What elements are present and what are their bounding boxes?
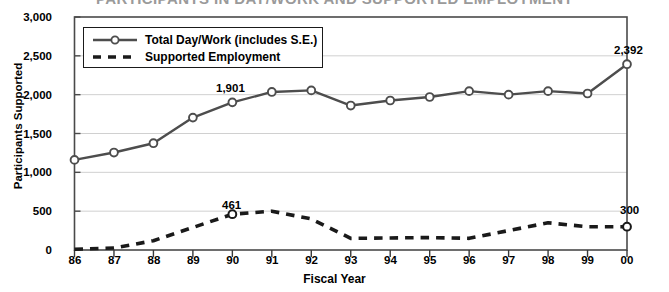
- legend-label: Supported Employment: [145, 50, 280, 64]
- annotation-1901: 1,901: [216, 82, 245, 94]
- x-axis-ticks: [75, 250, 628, 257]
- legend-item-supported-employment: Supported Employment: [92, 49, 280, 65]
- series-line: [75, 211, 628, 249]
- legend-label: Total Day/Work (includes S.E.): [145, 33, 317, 47]
- data-point-marker: [228, 210, 236, 218]
- data-point-marker: [584, 90, 592, 98]
- data-point-marker: [307, 86, 315, 94]
- legend-swatch-dashed: [92, 50, 138, 64]
- data-point-marker: [71, 156, 79, 164]
- data-point-marker: [623, 223, 631, 231]
- data-point-marker: [228, 98, 236, 106]
- data-point-marker: [544, 87, 552, 95]
- legend-swatch-solid-circle-marker: [92, 33, 138, 47]
- annotation-461: 461: [222, 199, 241, 211]
- data-point-marker: [268, 88, 276, 96]
- data-point-marker: [347, 102, 355, 110]
- legend: Total Day/Work (includes S.E.) Supported…: [83, 27, 323, 68]
- annotation-300: 300: [620, 204, 639, 216]
- data-point-marker: [189, 114, 197, 122]
- chart-container: PARTICIPANTS IN DAY/WORK AND SUPPORTED E…: [0, 0, 669, 292]
- data-point-marker: [623, 60, 631, 68]
- gridlines: [75, 56, 628, 211]
- series-layer: [71, 60, 631, 249]
- legend-item-total-day-work: Total Day/Work (includes S.E.): [92, 32, 317, 48]
- data-point-marker: [386, 97, 394, 105]
- data-point-marker: [426, 93, 434, 101]
- data-point-marker: [465, 87, 473, 95]
- data-point-marker: [110, 149, 118, 157]
- annotation-2392: 2,392: [614, 44, 643, 56]
- data-point-marker: [150, 139, 158, 147]
- data-point-marker: [505, 91, 513, 99]
